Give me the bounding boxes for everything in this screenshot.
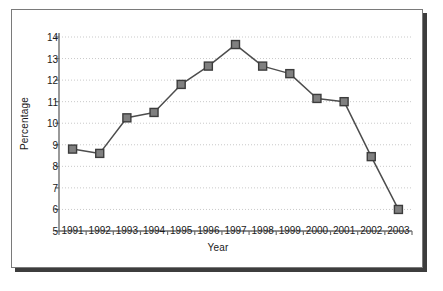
- x-tick-label: 1993: [116, 225, 138, 236]
- y-tick-label: 12: [47, 75, 58, 86]
- x-tick-label: 1994: [143, 225, 165, 236]
- x-axis-tick-labels: 1991199219931994199519961997199819992000…: [12, 225, 424, 241]
- y-tick-label: 8: [52, 161, 58, 172]
- data-point-marker: [123, 114, 131, 122]
- plot-area: 141312111098765 199119921993199419951996…: [12, 10, 424, 269]
- y-tick-label: 10: [47, 118, 58, 129]
- data-point-marker: [313, 94, 321, 102]
- x-axis-title: Year: [12, 242, 424, 253]
- x-tick-label: 1995: [170, 225, 192, 236]
- x-tick-label: 1998: [252, 225, 274, 236]
- y-tick-label: 14: [47, 32, 58, 43]
- data-point-marker: [286, 70, 294, 78]
- data-point-marker: [96, 149, 104, 157]
- x-tick-label: 2001: [333, 225, 355, 236]
- x-tick-label: 2002: [360, 225, 382, 236]
- x-tick-label: 2003: [387, 225, 409, 236]
- data-point-marker: [232, 41, 240, 49]
- data-point-marker: [204, 62, 212, 70]
- data-point-marker: [394, 205, 402, 213]
- x-tick-label: 1997: [224, 225, 246, 236]
- data-series-line: [73, 45, 399, 210]
- x-tick-label: 1991: [61, 225, 83, 236]
- y-tick-label: 9: [52, 139, 58, 150]
- data-point-marker: [69, 145, 77, 153]
- x-tick-label: 1999: [279, 225, 301, 236]
- y-tick-label: 11: [48, 96, 58, 107]
- data-point-marker: [177, 80, 185, 88]
- x-tick-label: 1992: [89, 225, 111, 236]
- data-point-marker: [340, 98, 348, 106]
- chart-frame: 141312111098765 199119921993199419951996…: [11, 9, 423, 268]
- x-tick-label: 1996: [197, 225, 219, 236]
- data-point-marker: [259, 62, 267, 70]
- y-tick-label: 7: [52, 182, 58, 193]
- y-tick-label: 6: [52, 204, 58, 215]
- y-axis-title: Percentage: [19, 74, 30, 174]
- data-point-marker: [150, 108, 158, 116]
- y-tick-label: 13: [47, 53, 58, 64]
- x-tick-label: 2000: [306, 225, 328, 236]
- data-point-marker: [367, 153, 375, 161]
